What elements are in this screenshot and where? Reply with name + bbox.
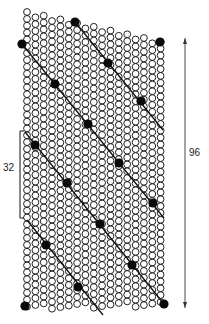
open-circle — [49, 18, 56, 25]
open-circle — [157, 271, 164, 278]
open-circle — [124, 209, 131, 216]
open-circle — [149, 129, 156, 136]
open-circle — [24, 152, 31, 159]
open-circle — [124, 216, 131, 223]
open-circle — [82, 285, 89, 292]
open-circle — [132, 194, 139, 201]
open-circle — [32, 199, 39, 206]
open-circle — [99, 296, 106, 303]
open-circle — [132, 139, 139, 146]
open-circle — [149, 81, 156, 88]
open-circle — [24, 9, 31, 16]
open-circle — [157, 86, 164, 93]
open-circle — [90, 250, 97, 257]
open-circle — [141, 151, 148, 158]
open-circle — [40, 40, 47, 47]
open-circle — [32, 14, 39, 21]
open-circle — [132, 290, 139, 297]
open-circle — [115, 53, 122, 60]
open-circle — [40, 26, 47, 33]
open-circle — [49, 93, 56, 100]
open-circle — [32, 124, 39, 131]
open-circle — [65, 35, 72, 42]
open-circle — [107, 274, 114, 281]
open-circle — [24, 214, 31, 221]
open-circle — [49, 127, 56, 134]
open-circle — [132, 77, 139, 84]
open-circle — [157, 182, 164, 189]
open-circle — [24, 111, 31, 118]
open-circle — [65, 110, 72, 117]
open-circle — [99, 29, 106, 36]
open-circle — [124, 127, 131, 134]
open-circle — [49, 148, 56, 155]
open-circle — [132, 153, 139, 160]
open-circle — [65, 28, 72, 35]
open-circle — [40, 108, 47, 115]
open-circle — [57, 112, 64, 119]
open-circle — [57, 37, 64, 44]
filled-dot — [148, 198, 157, 207]
open-circle — [141, 213, 148, 220]
open-circle — [124, 58, 131, 65]
open-circle — [74, 225, 81, 232]
open-circle — [124, 65, 131, 72]
open-circle — [90, 229, 97, 236]
open-circle — [141, 261, 148, 268]
open-circle — [65, 49, 72, 56]
open-circle — [82, 183, 89, 190]
open-circle — [149, 293, 156, 300]
open-circle — [149, 232, 156, 239]
open-circle — [115, 39, 122, 46]
open-circle — [115, 272, 122, 279]
open-circle — [99, 111, 106, 118]
open-circle — [32, 130, 39, 137]
open-circle — [141, 41, 148, 48]
open-circle — [99, 289, 106, 296]
open-circle — [49, 292, 56, 299]
open-circle — [149, 150, 156, 157]
open-circle — [141, 69, 148, 76]
open-circle — [49, 216, 56, 223]
open-circle — [90, 106, 97, 113]
open-circle — [40, 129, 47, 136]
open-circle — [99, 241, 106, 248]
open-circle — [49, 59, 56, 66]
open-circle — [32, 151, 39, 158]
open-circle — [99, 42, 106, 49]
open-circle — [107, 41, 114, 48]
open-circle — [149, 239, 156, 246]
open-circle — [157, 93, 164, 100]
open-circle — [141, 76, 148, 83]
open-circle — [65, 289, 72, 296]
open-circle — [82, 237, 89, 244]
open-circle — [82, 148, 89, 155]
open-circle — [65, 193, 72, 200]
open-circle — [40, 225, 47, 232]
open-circle — [107, 34, 114, 41]
filled-dot — [155, 37, 164, 46]
open-circle — [49, 305, 56, 312]
open-circle — [149, 74, 156, 81]
open-circle — [40, 95, 47, 102]
open-circle — [65, 152, 72, 159]
open-circle — [107, 185, 114, 192]
open-circle — [99, 186, 106, 193]
open-circle — [40, 293, 47, 300]
open-circle — [90, 92, 97, 99]
open-circle — [141, 247, 148, 254]
open-circle — [40, 101, 47, 108]
open-circle — [74, 54, 81, 61]
open-circle — [57, 139, 64, 146]
open-circle — [115, 300, 122, 307]
open-circle — [24, 146, 31, 153]
open-circle — [124, 93, 131, 100]
open-circle — [24, 221, 31, 228]
open-circle — [32, 96, 39, 103]
open-circle — [107, 205, 114, 212]
open-circle — [157, 127, 164, 134]
open-circle — [124, 134, 131, 141]
open-circle — [57, 249, 64, 256]
open-circle — [32, 274, 39, 281]
double-arrow-96 — [183, 38, 187, 308]
